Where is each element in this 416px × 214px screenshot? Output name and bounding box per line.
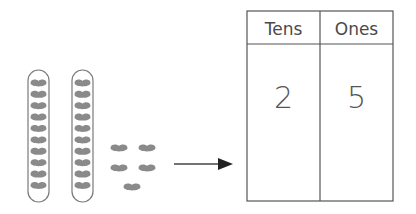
bean-icon (139, 164, 156, 171)
bean-icon (111, 164, 128, 171)
bean-icon (31, 125, 47, 132)
bean-icon (31, 79, 47, 86)
bean-icon (75, 125, 91, 132)
bean-icon (75, 102, 91, 109)
bean-icon (124, 183, 141, 190)
bean-icon (75, 114, 91, 121)
bean-icon (75, 148, 91, 155)
ones-header: Ones (320, 19, 393, 39)
bean-icon (31, 159, 47, 166)
bean-icon (75, 136, 91, 143)
tens-group-1 (28, 70, 49, 202)
bean-icon (75, 159, 91, 166)
arrow-right-icon (174, 158, 233, 170)
tens-group-2 (72, 70, 93, 202)
bean-icon (31, 182, 47, 189)
bean-icon (31, 91, 47, 98)
bean-icon (111, 144, 128, 151)
bean-icon (31, 102, 47, 109)
bean-icon (31, 148, 47, 155)
bean-icon (31, 171, 47, 178)
bean-icon (75, 79, 91, 86)
tens-beans (31, 79, 91, 189)
bean-icon (75, 182, 91, 189)
bean-icon (75, 91, 91, 98)
bean-icon (31, 136, 47, 143)
ones-value: 5 (320, 80, 393, 115)
bean-icon (31, 114, 47, 121)
ones-beans (111, 144, 156, 190)
bean-icon (75, 171, 91, 178)
tens-value: 2 (247, 80, 320, 115)
tens-header: Tens (247, 19, 320, 39)
bean-icon (139, 144, 156, 151)
